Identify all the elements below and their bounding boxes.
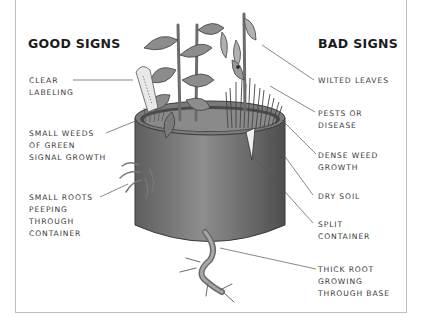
leader-thick-root (220, 248, 316, 269)
leader-wilted-leaves (262, 45, 314, 80)
leader-small-roots (100, 184, 128, 197)
label-small-roots: SMALL ROOTS PEEPING THROUGH CONTAINER (29, 192, 93, 240)
label-dense-weed-growth: DENSE WEED GROWTH (318, 150, 378, 174)
label-clear-labeling: CLEAR LABELING (29, 75, 74, 99)
label-dry-soil: DRY SOIL (318, 191, 360, 203)
label-thick-root: THICK ROOT GROWING THROUGH BASE (318, 264, 390, 300)
bad-signs-heading: BAD SIGNS (318, 36, 398, 51)
wilted-leaves (221, 18, 256, 80)
pot (135, 101, 285, 242)
leader-dense-weed (282, 120, 316, 154)
label-wilted-leaves: WILTED LEAVES (318, 75, 389, 87)
leader-small-weeds (106, 120, 138, 133)
thick-root (180, 232, 234, 302)
label-small-weeds: SMALL WEEDS OF GREEN SIGNAL GROWTH (29, 128, 106, 164)
good-signs-heading: GOOD SIGNS (28, 36, 121, 51)
label-split-container: SPLIT CONTAINER (318, 219, 370, 243)
label-pests-disease: PESTS OR DISEASE (318, 108, 363, 132)
pest-spot (236, 65, 239, 68)
